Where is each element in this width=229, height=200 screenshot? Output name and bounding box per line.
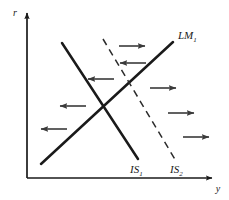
flow-arrows — [41, 46, 209, 137]
curve-label-lm1: LM1 — [177, 29, 197, 44]
curve-is1 — [62, 43, 138, 159]
curve-label-is2-sub: 2 — [179, 170, 183, 178]
curve-label-is2: IS2 — [169, 163, 183, 178]
x-axis-label: y — [215, 183, 221, 194]
y-axis-label: r — [13, 7, 17, 18]
curve-lm1 — [41, 42, 173, 164]
is-lm-diagram: r y LM1 IS1 IS2 — [0, 0, 229, 200]
curves — [41, 39, 176, 164]
curve-label-lm1-sub: 1 — [193, 36, 197, 44]
curve-label-is1: IS1 — [129, 163, 143, 178]
curve-is2 — [103, 39, 176, 161]
curve-label-is1-sub: 1 — [139, 170, 143, 178]
curve-label-lm1-base: LM — [177, 29, 194, 41]
curve-label-is1-base: IS — [129, 163, 140, 175]
curve-label-is2-base: IS — [169, 163, 180, 175]
